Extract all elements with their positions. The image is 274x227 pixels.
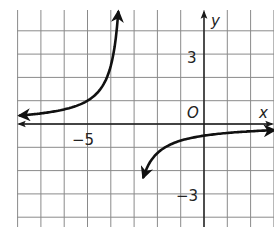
origin-label: O [187, 104, 199, 122]
y-tick-label-neg3: −3 [176, 187, 198, 205]
x-axis-label: x [258, 104, 268, 122]
curve-left-branch [20, 12, 118, 116]
rational-function-graph: y x O 3 −3 −5 [0, 0, 274, 227]
y-tick-label-3: 3 [187, 49, 197, 67]
grid-lines [17, 10, 274, 227]
y-axis-label: y [210, 12, 221, 30]
x-tick-label-neg5: −5 [72, 131, 94, 149]
curve-right-branch [143, 130, 274, 177]
